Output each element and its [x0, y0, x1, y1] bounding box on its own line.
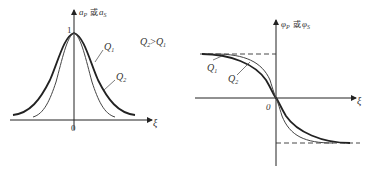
svg-text:aP: aP — [79, 7, 88, 18]
phase-q1-label: Q1 — [207, 62, 217, 74]
phase-q2-leader-line — [237, 62, 250, 75]
amplitude-y-axis-label: aP 或 aS — [79, 7, 107, 18]
phase-y-axis-label: φP 或 φS — [281, 19, 310, 30]
amplitude-q1-label: Q1 — [104, 41, 114, 53]
q-comparison-note: Q2>Q1 — [140, 36, 166, 48]
svg-text:φP: φP — [281, 19, 290, 30]
amplitude-panel: 1 0 ξ aP 或 aS Q1 Q2 — [10, 7, 158, 133]
svg-text:或: 或 — [293, 19, 301, 29]
q1-leader-line — [95, 50, 103, 62]
amplitude-q2-label: Q2 — [116, 71, 126, 83]
svg-text:φS: φS — [302, 19, 310, 30]
phase-x-axis-label: ξ — [357, 95, 362, 107]
phase-origin-label: 0 — [266, 102, 271, 112]
resonance-diagram: 1 0 ξ aP 或 aS Q1 Q2 Q2>Q1 Q1 Q2 0 ξ φP 或 — [0, 0, 367, 184]
svg-text:或: 或 — [90, 7, 98, 17]
peak-value-label: 1 — [67, 25, 72, 35]
phase-q1-leader-line — [213, 56, 222, 60]
q2-leader-line — [104, 80, 115, 90]
svg-text:aS: aS — [99, 7, 107, 18]
phase-panel: Q1 Q2 0 ξ φP 或 φS — [195, 19, 362, 166]
amplitude-x-axis-label: ξ — [153, 117, 158, 129]
phase-q2-label: Q2 — [228, 73, 238, 85]
amplitude-origin-label: 0 — [71, 123, 76, 133]
